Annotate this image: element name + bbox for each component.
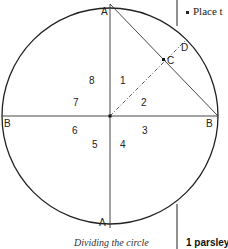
label-b-right: B <box>206 118 213 129</box>
segment-6: 6 <box>72 125 78 136</box>
step-label: 1 parsley <box>186 237 228 248</box>
segment-2: 2 <box>141 97 147 108</box>
diagram-caption: Dividing the circle <box>74 237 149 248</box>
segment-7: 7 <box>73 97 79 108</box>
label-a-top: A <box>101 6 108 17</box>
circle-diagram: A A B B C D 1 2 3 4 5 6 7 8 <box>0 0 228 249</box>
segment-4: 4 <box>120 139 126 150</box>
segment-5: 5 <box>92 139 98 150</box>
segment-3: 3 <box>142 125 148 136</box>
bullet-item: Place t <box>186 5 223 17</box>
segment-8: 8 <box>89 75 95 86</box>
center-point-marker <box>109 115 112 118</box>
label-c: C <box>167 55 174 66</box>
label-d: D <box>181 42 188 53</box>
segment-1: 1 <box>120 75 126 86</box>
label-a-bottom: A <box>99 217 106 228</box>
label-b-left: B <box>4 118 11 129</box>
bullet-text: Place t <box>193 5 223 17</box>
bullet-square-icon <box>186 11 189 14</box>
point-c-marker <box>162 58 165 61</box>
